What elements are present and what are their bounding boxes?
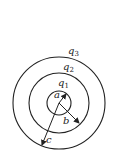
radius-a-arrow — [59, 94, 66, 103]
label-c: c — [46, 134, 52, 145]
label-q3: q3 — [68, 45, 79, 58]
label-b: b — [63, 115, 69, 126]
label-q2: q2 — [63, 61, 74, 74]
label-a: a — [54, 89, 60, 100]
concentric-shells-diagram: q3 q2 q1 a b c — [0, 0, 117, 160]
